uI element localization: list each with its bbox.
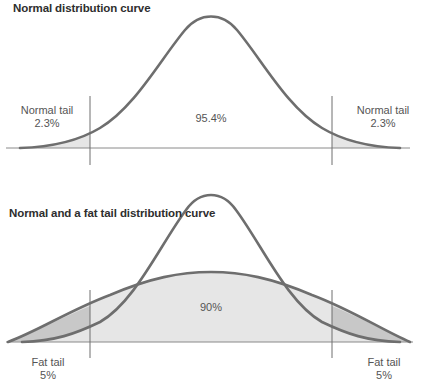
- bottom-left-tail-value: 5%: [20, 369, 76, 382]
- bottom-left-tail-label: Fat tail 5%: [20, 356, 76, 382]
- top-right-tail-name: Normal tail: [345, 104, 421, 117]
- top-right-tail-label: Normal tail 2.3%: [345, 104, 421, 130]
- top-left-tail-name: Normal tail: [8, 104, 86, 117]
- top-chart: [6, 17, 410, 166]
- bottom-left-tail-name: Fat tail: [20, 356, 76, 369]
- top-left-tail-value: 2.3%: [8, 117, 86, 130]
- top-center-value: 95.4%: [181, 112, 241, 125]
- distribution-diagram: [0, 0, 421, 386]
- bottom-chart-title: Normal and a fat tail distribution curve: [9, 207, 215, 219]
- bottom-right-tail-label: Fat tail 5%: [356, 356, 412, 382]
- top-right-tail-value: 2.3%: [345, 117, 421, 130]
- bottom-right-tail-value: 5%: [356, 369, 412, 382]
- bottom-center-value: 90%: [189, 301, 233, 314]
- bottom-chart: [6, 195, 413, 358]
- top-right-tail-fill: [332, 133, 400, 148]
- top-left-tail-fill: [20, 133, 90, 148]
- bottom-right-tail-name: Fat tail: [356, 356, 412, 369]
- top-left-tail-label: Normal tail 2.3%: [8, 104, 86, 130]
